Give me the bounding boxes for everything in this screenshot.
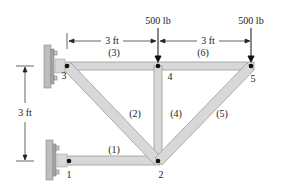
joint-2-pin bbox=[156, 159, 161, 164]
member-1 bbox=[60, 156, 160, 165]
member-label-5: (5) bbox=[216, 108, 228, 120]
joint-label-5: 5 bbox=[251, 73, 256, 84]
member-label-1: (1) bbox=[108, 144, 120, 156]
load-label-4: 500 lb bbox=[145, 15, 170, 26]
load-label-5: 500 lb bbox=[238, 15, 263, 26]
member-6 bbox=[158, 62, 254, 70]
arrow-down-icon bbox=[155, 56, 161, 62]
joint-label-2: 2 bbox=[159, 169, 164, 180]
member-4 bbox=[154, 66, 162, 161]
joint-1-pin bbox=[67, 159, 72, 164]
truss-diagram: 500 lb 500 lb 3 ft 3 ft 3 ft (3) (6) (2)… bbox=[0, 0, 282, 190]
dim-label-4-5: 3 ft bbox=[201, 35, 215, 46]
joint-label-4: 4 bbox=[168, 71, 173, 82]
joint-3-pin bbox=[65, 64, 70, 69]
joint-label-1: 1 bbox=[67, 169, 72, 180]
dim-label-height: 3 ft bbox=[18, 107, 32, 118]
dim-label-3-4: 3 ft bbox=[105, 35, 119, 46]
joint-5-pin bbox=[249, 64, 254, 69]
lower-support bbox=[46, 140, 67, 180]
joint-4-pin bbox=[156, 64, 161, 69]
member-label-2: (2) bbox=[129, 108, 141, 120]
arrow-down-icon bbox=[248, 56, 254, 62]
upper-support bbox=[44, 45, 65, 88]
member-label-3: (3) bbox=[108, 47, 120, 59]
member-label-4: (4) bbox=[170, 108, 182, 120]
joint-label-3: 3 bbox=[62, 70, 67, 81]
member-label-6: (6) bbox=[197, 47, 209, 59]
